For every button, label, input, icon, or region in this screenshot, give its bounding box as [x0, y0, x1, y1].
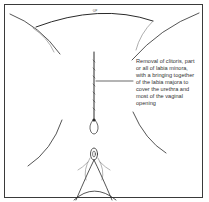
- upper-left-curve: [10, 14, 60, 54]
- annotation-label: Removal of clitoris, part or all of labi…: [136, 58, 208, 107]
- bottom-arc: [74, 191, 116, 200]
- anal-ellipse: [91, 148, 98, 160]
- small-opening: [90, 120, 98, 134]
- lower-left-curve: [28, 120, 62, 166]
- upper-left-inner-curve: [33, 28, 54, 52]
- annotation-line: most of the vaginal: [136, 93, 208, 100]
- lower-left-buttock-line: [76, 160, 94, 200]
- annotation-line: opening: [136, 100, 208, 107]
- annotation-line: cover the urethra and: [136, 86, 208, 93]
- upper-right-inner-curve: [136, 21, 153, 50]
- annotation-line: or all of labia minora,: [136, 65, 208, 72]
- diagram-frame: ·UP Removal of clitoris, part or all of …: [0, 0, 209, 202]
- annotation-line: with a bringing together: [136, 72, 208, 79]
- suture-end-dot: [92, 118, 95, 121]
- annotation-line: Removal of clitoris, part: [136, 58, 208, 65]
- annotation-line: of the labia majora to: [136, 79, 208, 86]
- lower-right-curve: [133, 112, 166, 153]
- upper-right-curve: [132, 13, 199, 60]
- top-mark: ·UP: [92, 9, 97, 13]
- lower-right-buttock-line: [94, 160, 112, 200]
- anal-inner: [93, 151, 96, 157]
- top-arc: [36, 13, 153, 27]
